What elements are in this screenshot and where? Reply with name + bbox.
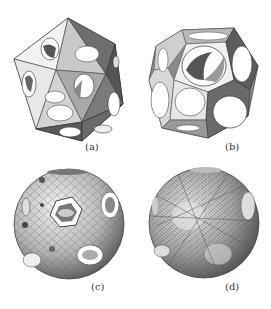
- panel-b-label: (b): [225, 141, 239, 152]
- panel-a-icosahedron: [10, 14, 128, 144]
- panel-b-dodecahedron: [146, 24, 262, 142]
- panel-d-sphere-lattice: [148, 166, 260, 280]
- panel-d-label: (d): [225, 281, 239, 292]
- sphere-d-figure: [148, 166, 260, 280]
- sphere-c-figure: [12, 167, 126, 281]
- icosahedron-figure: [10, 14, 128, 144]
- panel-a-label: (a): [85, 141, 99, 152]
- panel-c-label: (c): [91, 281, 104, 292]
- dodecahedron-figure: [146, 24, 262, 142]
- panel-c-sphere-lattice: [12, 167, 126, 281]
